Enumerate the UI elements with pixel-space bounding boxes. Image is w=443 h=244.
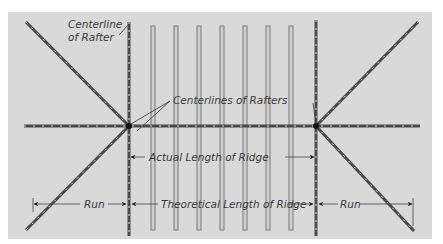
centerline-of-rafter-label-2: of Rafter	[68, 31, 114, 43]
centerline-of-rafter-label-1: Centerline	[68, 18, 122, 30]
hip-roof-framing-diagram: Centerline of Rafter Centerlines of Raft…	[0, 0, 443, 244]
run-left-label: Run	[84, 198, 105, 210]
theoretical-length-of-ridge-label: Theoretical Length of Ridge	[161, 198, 306, 210]
centerlines-of-rafters-label: Centerlines of Rafters	[173, 94, 288, 106]
leader-lines	[119, 24, 316, 131]
run-right-label: Run	[340, 198, 361, 210]
actual-length-of-ridge-label: Actual Length of Ridge	[148, 151, 269, 163]
